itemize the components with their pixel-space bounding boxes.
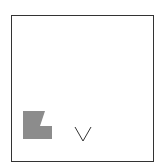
v-glyph-stroke <box>75 127 91 141</box>
v-glyph-icon <box>0 0 161 167</box>
